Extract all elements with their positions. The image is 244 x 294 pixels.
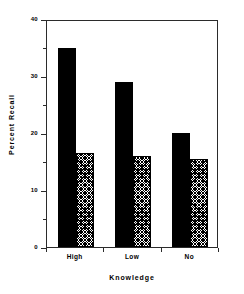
bars-group [47, 21, 217, 247]
bar-low-solid [115, 82, 133, 247]
x-axis-tick [103, 248, 104, 252]
bar-no-hatched [190, 159, 208, 247]
y-axis-title: Percent Recall [0, 0, 22, 248]
bar-chart-figure: Percent Recall 010203040 HighLowNo Knowl… [0, 0, 244, 294]
bar-low-hatched [133, 156, 151, 247]
x-axis-tick [46, 248, 47, 252]
y-axis-tick-label: 20 [0, 130, 38, 136]
x-axis-tick-label-high: High [47, 253, 103, 260]
bar-high-hatched [76, 153, 94, 247]
x-axis-title: Knowledge [46, 274, 218, 281]
x-axis-tick-label-low: Low [104, 253, 160, 260]
bar-no-solid [172, 133, 190, 247]
x-axis-tick [161, 248, 162, 252]
y-axis-tick-label: 30 [0, 73, 38, 79]
x-axis-tick-label-no: No [161, 253, 217, 260]
x-axis-tick [218, 248, 219, 252]
y-axis-tick-label: 40 [0, 16, 38, 22]
bar-high-solid [58, 48, 76, 248]
y-axis-title-text: Percent Recall [8, 94, 15, 155]
y-axis-tick-label: 10 [0, 187, 38, 193]
y-axis-tick-label: 0 [0, 244, 38, 250]
plot-area [46, 20, 218, 248]
